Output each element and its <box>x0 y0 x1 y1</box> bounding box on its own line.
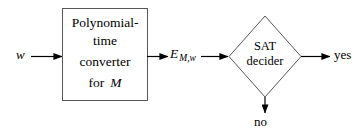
formula-label: EM,w <box>170 47 196 64</box>
converter-for-word: for <box>89 75 105 90</box>
input-string-label: w <box>16 48 25 61</box>
flow-diagram: Polynomial- time converter forM SAT deci… <box>0 0 362 132</box>
decider-text-line-1: SAT <box>230 40 300 53</box>
converter-text-line-1: Polynomial- <box>62 16 148 30</box>
formula-subscript: M,w <box>178 53 196 63</box>
diagram-canvas <box>0 0 362 132</box>
reject-label: no <box>254 115 267 128</box>
decider-text-line-2: decider <box>230 55 300 68</box>
converter-text-line-4: forM <box>62 76 148 90</box>
converter-text-line-3: converter <box>62 55 148 69</box>
formula-base-symbol: E <box>170 46 178 61</box>
converter-machine-symbol: M <box>104 75 121 90</box>
converter-text-line-2: time <box>62 34 148 48</box>
accept-label: yes <box>334 48 351 61</box>
